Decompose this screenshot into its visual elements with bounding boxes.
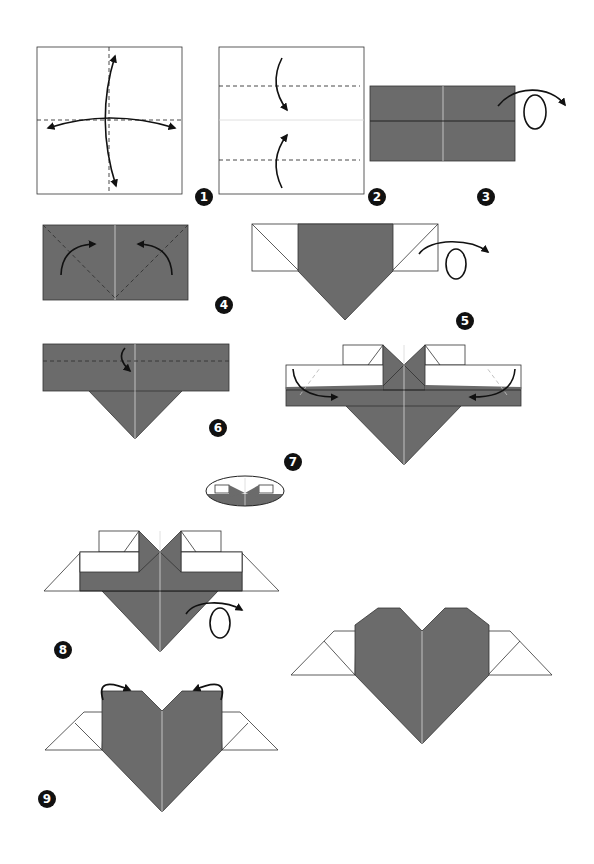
final-heart-diagram [291,608,552,744]
step-number-badge: 9 [38,790,56,808]
svg-text:9: 9 [43,792,51,806]
step-number-badge: 6 [209,419,227,437]
step-7-detail-inset [200,470,290,510]
svg-text:5: 5 [461,314,469,328]
step-6-diagram: 6 [43,344,229,439]
step-1-diagram: 1 [37,47,213,206]
step-3-diagram: 3 [370,86,565,206]
svg-text:4: 4 [220,298,228,312]
svg-text:8: 8 [59,643,67,657]
step-number-badge: 1 [195,188,213,206]
step-2-diagram: 2 [219,47,386,206]
step-number-badge: 8 [54,641,72,659]
svg-text:3: 3 [482,190,490,204]
origami-diagram: 1 2 3 4 [0,0,594,864]
svg-text:7: 7 [289,455,297,469]
step-number-badge: 2 [368,188,386,206]
step-number-badge: 7 [284,453,302,471]
step-9-diagram: 9 [38,684,278,812]
svg-text:6: 6 [214,421,222,435]
step-5-diagram: 5 [252,224,488,330]
svg-text:2: 2 [373,190,381,204]
step-7-diagram: 7 [284,345,521,471]
step-number-badge: 5 [456,312,474,330]
step-8-diagram: 8 [44,531,279,659]
svg-text:1: 1 [200,190,208,204]
step-number-badge: 4 [215,296,233,314]
step-number-badge: 3 [477,188,495,206]
step-4-diagram: 4 [43,225,233,314]
